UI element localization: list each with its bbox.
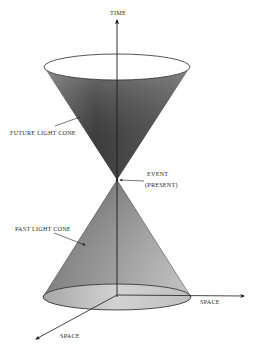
space-axis-right-label: SPACE bbox=[200, 298, 220, 305]
light-cone-diagram: TIME FUTURE LIGHT CONE EVENT (PRESENT) P… bbox=[0, 0, 253, 355]
time-axis-label: TIME bbox=[110, 9, 126, 16]
event-pointer bbox=[120, 180, 144, 181]
event-point bbox=[116, 179, 118, 181]
future-cone-label: FUTURE LIGHT CONE bbox=[10, 129, 76, 136]
future-cone-pointer bbox=[55, 117, 80, 126]
space-axis-diagonal-label: SPACE bbox=[60, 332, 80, 339]
past-cone-label: PAST LIGHT CONE bbox=[15, 225, 71, 232]
event-label: EVENT bbox=[147, 170, 168, 177]
present-label: (PRESENT) bbox=[145, 181, 178, 189]
